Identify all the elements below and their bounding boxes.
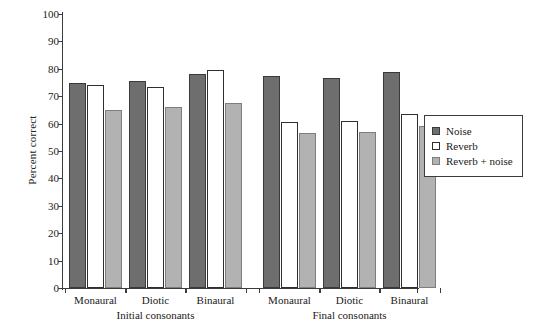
x-tick-mark-12 <box>417 288 418 293</box>
bar-reverb-3 <box>281 122 298 288</box>
x-tick-mark-3 <box>186 288 187 293</box>
bar-reverb-0 <box>87 85 104 288</box>
x-category-label-2: Binaural <box>176 294 256 306</box>
x-tick-mark-2 <box>125 288 126 293</box>
legend-label-reverb: Reverb <box>446 140 478 152</box>
x-tick-mark-5 <box>246 288 247 293</box>
bar-noise-4 <box>323 78 340 288</box>
y-tick-mark-50 <box>58 151 63 152</box>
legend-swatch-reverb-icon <box>432 142 440 150</box>
legend-item-reverb-noise[interactable]: Reverb + noise <box>432 155 513 167</box>
bar-reverbnoise-4 <box>359 132 376 288</box>
bar-reverbnoise-0 <box>105 110 122 288</box>
legend-label-noise: Noise <box>446 125 472 137</box>
x-tick-mark-9 <box>380 288 381 293</box>
bar-reverb-1 <box>147 87 164 288</box>
bar-noise-1 <box>129 81 146 288</box>
bar-reverbnoise-3 <box>299 133 316 288</box>
x-tick-mark-4 <box>185 288 186 293</box>
bar-noise-3 <box>263 76 280 288</box>
y-tick-mark-60 <box>58 124 63 125</box>
legend-swatch-noise-icon <box>432 127 440 135</box>
y-tick-mark-30 <box>58 206 63 207</box>
bar-reverb-2 <box>207 70 224 288</box>
bar-noise-0 <box>69 83 86 289</box>
legend: Noise Reverb Reverb + noise <box>424 115 523 177</box>
x-tick-mark-10 <box>379 288 380 293</box>
plot-area: 0102030405060708090100 <box>63 14 418 288</box>
y-tick-mark-90 <box>58 41 63 42</box>
legend-label-reverb-noise: Reverb + noise <box>446 155 513 167</box>
bar-reverb-5 <box>401 114 418 288</box>
y-tick-label-100: 100 <box>43 8 60 20</box>
y-tick-mark-20 <box>58 233 63 234</box>
legend-swatch-reverb-noise-icon <box>432 157 440 165</box>
bar-reverbnoise-2 <box>225 103 242 288</box>
x-group-label-1: Final consonants <box>290 309 410 321</box>
legend-item-reverb[interactable]: Reverb <box>432 140 513 152</box>
x-tick-mark-0 <box>65 288 66 293</box>
bar-noise-5 <box>383 72 400 288</box>
x-tick-mark-11 <box>440 288 441 293</box>
bar-reverbnoise-1 <box>165 107 182 288</box>
bar-reverb-4 <box>341 121 358 288</box>
y-tick-mark-10 <box>58 261 63 262</box>
x-tick-mark-8 <box>319 288 320 293</box>
x-axis-line <box>62 288 419 289</box>
x-group-label-0: Initial consonants <box>96 309 216 321</box>
chart-figure: Percent correct 0102030405060708090100 M… <box>0 0 539 328</box>
y-tick-mark-80 <box>58 69 63 70</box>
y-tick-mark-70 <box>58 96 63 97</box>
bar-noise-2 <box>189 74 206 288</box>
x-category-label-5: Binaural <box>370 294 450 306</box>
legend-item-noise[interactable]: Noise <box>432 125 513 137</box>
y-tick-mark-0 <box>58 288 63 289</box>
x-tick-mark-1 <box>126 288 127 293</box>
x-tick-mark-7 <box>320 288 321 293</box>
y-tick-mark-100 <box>58 14 63 15</box>
y-axis-label: Percent correct <box>26 95 42 205</box>
x-tick-mark-6 <box>259 288 260 293</box>
y-tick-mark-40 <box>58 178 63 179</box>
